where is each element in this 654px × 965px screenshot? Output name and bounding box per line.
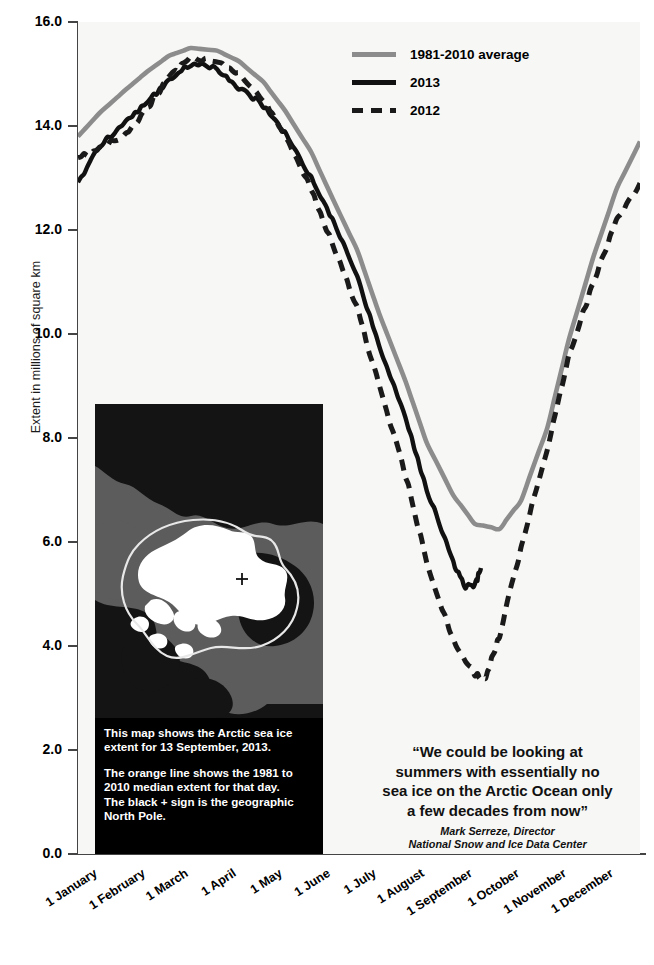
caption-line: This map shows the Arctic sea ice xyxy=(104,726,316,740)
legend-label: 1981-2010 average xyxy=(410,47,529,62)
x-tick-label: 1 March xyxy=(143,866,190,903)
legend-item: 1981-2010 average xyxy=(352,40,529,68)
map-caption-box: This map shows the Arctic sea iceextent … xyxy=(95,718,323,854)
quote-line: a few decades from now” xyxy=(355,801,640,821)
chart-legend: 1981-2010 average20132012 xyxy=(352,40,529,124)
caption-line: extent for 13 September, 2013. xyxy=(104,740,316,754)
quote-line: sea ice on the Arctic Ocean only xyxy=(355,781,640,801)
caption-line: The orange line shows the 1981 to xyxy=(104,766,316,780)
x-axis-ticks: 1 January1 February1 March1 April1 May1 … xyxy=(0,862,654,962)
x-tick-label: 1 May xyxy=(248,866,285,897)
quote-line: “We could be looking at xyxy=(355,742,640,762)
sea-ice-extent-figure: Extent in millions of square km 16.014.0… xyxy=(0,0,654,965)
caption-spacer xyxy=(104,755,316,766)
caption-line: 2010 median extent for that day. xyxy=(104,780,316,794)
legend-item: 2013 xyxy=(352,68,529,96)
quote-attribution-name: Mark Serreze, Director xyxy=(355,825,640,838)
quote-attribution-org: National Snow and Ice Data Center xyxy=(355,838,640,851)
legend-label: 2012 xyxy=(410,103,440,118)
quote-text: “We could be looking atsummers with esse… xyxy=(355,742,640,820)
quote-block: “We could be looking atsummers with esse… xyxy=(355,742,640,851)
x-tick-label: 1 April xyxy=(199,866,239,899)
arctic-map-graphic xyxy=(95,404,323,718)
legend-label: 2013 xyxy=(410,75,440,90)
legend-item: 2012 xyxy=(352,96,529,124)
arctic-map-inset xyxy=(95,404,323,718)
caption-line: North Pole. xyxy=(104,809,316,823)
quote-line: summers with essentially no xyxy=(355,762,640,782)
x-tick-label: 1 June xyxy=(292,866,333,899)
caption-line: The black + sign is the geographic xyxy=(104,795,316,809)
x-tick-label: 1 July xyxy=(342,866,379,897)
